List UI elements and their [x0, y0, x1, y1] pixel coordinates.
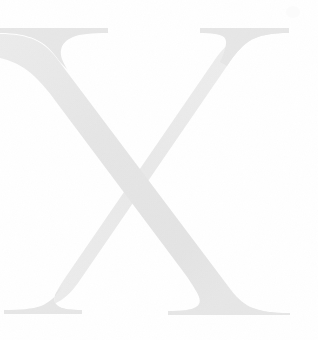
letter-x-glyph: [0, 0, 318, 340]
serif-top-right: [200, 28, 289, 66]
page-canvas: [0, 0, 318, 340]
